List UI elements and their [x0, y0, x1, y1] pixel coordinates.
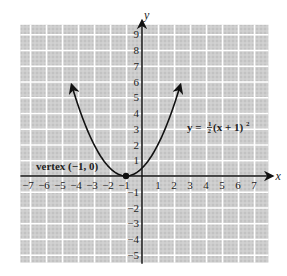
y-tick-label: 3: [134, 123, 140, 135]
x-tick-label: −2: [102, 179, 114, 191]
y-tick-label: 1: [134, 154, 140, 166]
parabola-chart: −7−6−5−4−3−2−11234567 −5−4−3−2−112345678…: [0, 0, 287, 276]
x-tick-label: 3: [187, 179, 193, 191]
y-tick-label: 4: [134, 107, 140, 119]
y-tick-label: −3: [127, 217, 139, 229]
x-tick-label: −5: [54, 179, 66, 191]
vertex-point: [123, 173, 129, 179]
x-tick-label: −3: [86, 179, 98, 191]
y-axis-label: y: [143, 8, 150, 22]
x-tick-label: −6: [38, 179, 50, 191]
y-tick-label: −4: [127, 233, 139, 245]
x-tick-label: 6: [235, 179, 241, 191]
equation-suffix: (x + 1): [213, 121, 243, 134]
equation-prefix: y =: [187, 121, 202, 133]
annotations: [123, 173, 129, 179]
x-tick-label: 5: [219, 179, 225, 191]
x-tick-label: 7: [251, 179, 257, 191]
y-tick-label: −2: [127, 202, 139, 214]
y-tick-label: 7: [134, 60, 140, 72]
vertex-annotation: vertex (−1, 0): [36, 160, 98, 173]
y-tick-label: 6: [134, 76, 140, 88]
y-tick-label: 9: [134, 28, 140, 40]
x-tick-label: −7: [22, 179, 34, 191]
equation-annotation: y = 1 2 (x + 1) 2: [187, 120, 250, 135]
plot-background: [20, 25, 268, 263]
equation-fraction-denominator: 2: [208, 127, 212, 135]
y-tick-label: 2: [134, 139, 140, 151]
y-tick-label: −5: [127, 249, 139, 261]
x-tick-label: 1: [155, 179, 161, 191]
y-tick-label: 5: [134, 91, 140, 103]
x-tick-label: 2: [171, 179, 177, 191]
equation-exponent: 2: [246, 120, 250, 128]
x-tick-label: −4: [70, 179, 82, 191]
x-axis-label: x: [274, 169, 281, 183]
y-tick-label: 8: [134, 44, 140, 56]
y-tick-label: −1: [127, 186, 139, 198]
x-tick-label: 4: [203, 179, 209, 191]
